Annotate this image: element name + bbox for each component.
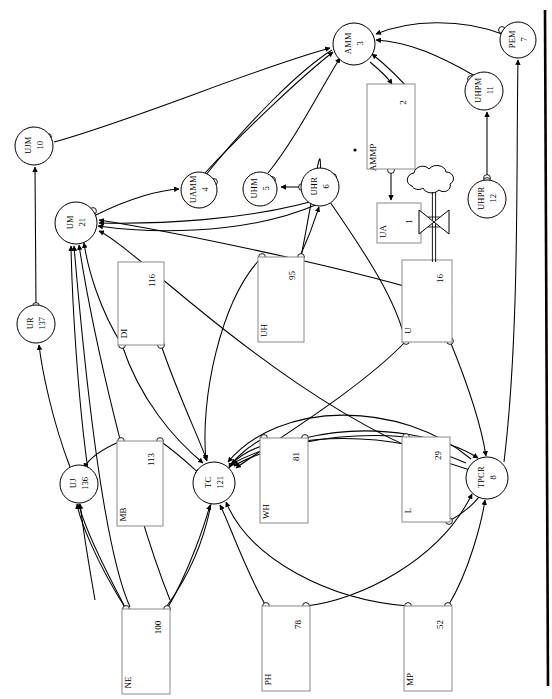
edge-arc bbox=[226, 502, 408, 606]
box-di[interactable] bbox=[118, 262, 164, 345]
edge-arc bbox=[376, 23, 502, 34]
cloud-source-icon bbox=[407, 165, 453, 192]
edge-arc bbox=[504, 60, 518, 462]
node-uhpm[interactable] bbox=[465, 72, 503, 110]
edge-arc bbox=[370, 62, 392, 84]
box-ammp[interactable] bbox=[367, 84, 415, 169]
box-wh[interactable] bbox=[260, 438, 308, 523]
edge-arc bbox=[161, 345, 207, 461]
box-l[interactable] bbox=[402, 437, 450, 522]
node-pem[interactable] bbox=[500, 22, 536, 58]
edge-arc bbox=[80, 504, 95, 600]
node-amm[interactable] bbox=[333, 23, 375, 65]
node-um[interactable] bbox=[55, 202, 97, 244]
node-uhm[interactable] bbox=[243, 172, 277, 206]
token-dot bbox=[353, 148, 356, 151]
node-tpcr[interactable] bbox=[466, 457, 508, 499]
box-u[interactable] bbox=[402, 260, 452, 342]
edge-arc bbox=[448, 500, 485, 606]
node-uamm[interactable] bbox=[181, 172, 217, 208]
edge-arc bbox=[205, 52, 333, 173]
edge-arc bbox=[84, 243, 122, 345]
node-ur[interactable] bbox=[17, 305, 55, 343]
box-uh[interactable] bbox=[258, 257, 304, 342]
node-tc[interactable] bbox=[193, 462, 235, 504]
box-mb[interactable] bbox=[117, 441, 163, 526]
valve-right-triangle bbox=[434, 210, 449, 234]
valve-left-triangle bbox=[419, 210, 434, 234]
edge-arc bbox=[160, 441, 200, 474]
edge-arc bbox=[35, 167, 36, 305]
edge-arc bbox=[268, 58, 340, 173]
box-mp[interactable] bbox=[404, 606, 452, 691]
shape-layer bbox=[15, 10, 548, 694]
node-uhpr[interactable] bbox=[468, 180, 506, 218]
node-uhr[interactable] bbox=[301, 168, 339, 206]
edge-arc bbox=[205, 257, 262, 460]
edge-arc bbox=[167, 505, 210, 609]
edge-arc bbox=[450, 341, 486, 456]
edge-arc bbox=[301, 207, 319, 254]
edge-arc bbox=[167, 504, 211, 606]
page-border-rule bbox=[545, 10, 548, 686]
box-ph[interactable] bbox=[262, 606, 310, 691]
edge-arc bbox=[39, 345, 70, 467]
edge-arc bbox=[54, 48, 330, 142]
node-uj[interactable] bbox=[60, 465, 98, 503]
node-ujm[interactable] bbox=[15, 127, 53, 165]
edge-arc bbox=[84, 441, 121, 468]
box-ne[interactable] bbox=[122, 609, 170, 694]
edge-arc bbox=[96, 189, 179, 215]
edge-arc bbox=[220, 505, 266, 606]
box-ua[interactable] bbox=[377, 203, 421, 243]
edge-arc bbox=[305, 431, 478, 458]
edge-arc bbox=[71, 246, 88, 470]
